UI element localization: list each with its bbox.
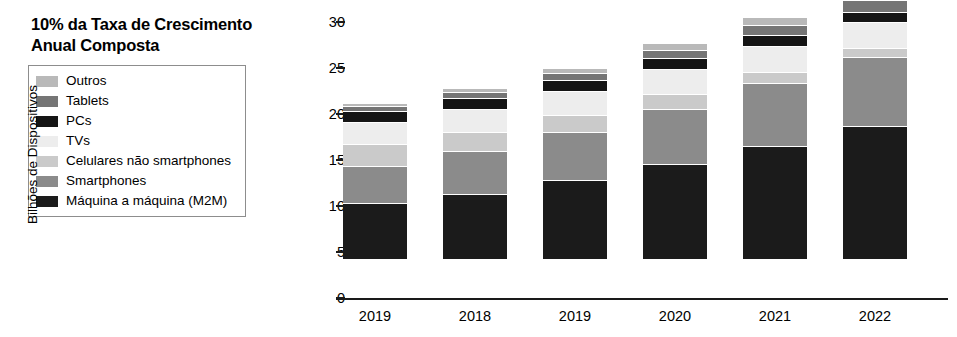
bar-2019-2[interactable] xyxy=(543,69,607,259)
bar-segment xyxy=(743,26,807,36)
bar-segment xyxy=(743,47,807,73)
bar-segment xyxy=(743,36,807,47)
bar-segment xyxy=(643,70,707,95)
bar-segment xyxy=(743,84,807,147)
bar-segment xyxy=(643,165,707,259)
bar-segment xyxy=(643,95,707,110)
bar-segment xyxy=(743,73,807,84)
bar-segment xyxy=(843,127,907,259)
x-tick-label-5: 2022 xyxy=(835,308,915,324)
bar-segment xyxy=(743,147,807,259)
x-tick-label-3: 2020 xyxy=(635,308,715,324)
bar-segment xyxy=(643,51,707,59)
bar-2022-5[interactable] xyxy=(843,0,907,259)
bar-segment xyxy=(443,133,507,152)
bar-segment xyxy=(543,133,607,181)
bar-segment xyxy=(443,152,507,194)
bar-2019-0[interactable] xyxy=(343,104,407,259)
bar-segment xyxy=(543,81,607,92)
bar-segment xyxy=(343,112,407,123)
bar-segment xyxy=(843,1,907,12)
bar-2020-3[interactable] xyxy=(643,44,707,259)
bar-group: 201920182019202020212022 xyxy=(336,0,952,298)
chart-plot-area: Bilhões de Dispositivos 051015202530 201… xyxy=(0,0,957,337)
bar-segment xyxy=(543,92,607,116)
bar-segment xyxy=(343,123,407,145)
bar-segment xyxy=(343,145,407,167)
y-axis-label: Bilhões de Dispositivos xyxy=(25,55,40,255)
bar-segment xyxy=(643,59,707,70)
bar-segment xyxy=(543,181,607,259)
bar-segment xyxy=(343,167,407,204)
x-tick-label-4: 2021 xyxy=(735,308,815,324)
bar-segment xyxy=(443,195,507,259)
bar-segment xyxy=(843,23,907,50)
x-tick-label-2: 2019 xyxy=(535,308,615,324)
x-tick-label-0: 2019 xyxy=(335,308,415,324)
bar-segment xyxy=(643,110,707,165)
bar-2018-1[interactable] xyxy=(443,89,507,259)
bar-segment xyxy=(343,204,407,259)
x-tick-label-1: 2018 xyxy=(435,308,515,324)
bar-segment xyxy=(543,116,607,133)
bar-segment xyxy=(843,58,907,128)
bar-segment xyxy=(843,49,907,57)
bar-segment xyxy=(443,110,507,133)
bar-segment xyxy=(843,13,907,23)
bar-segment xyxy=(443,99,507,110)
bar-segment xyxy=(643,44,707,51)
bar-segment xyxy=(743,18,807,26)
bar-2021-4[interactable] xyxy=(743,18,807,259)
